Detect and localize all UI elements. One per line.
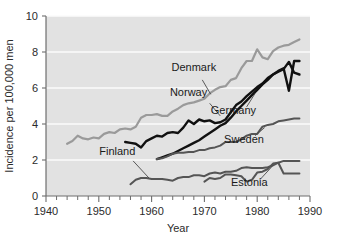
y-tick-label-2: 2	[32, 154, 38, 166]
x-axis-title: Year	[167, 222, 190, 234]
series-label-sweden: Sweden	[224, 133, 264, 145]
y-axis-title: Incidence per 100,000 men	[3, 39, 15, 172]
y-tick-label-6: 6	[32, 82, 38, 94]
series-label-estonia: Estonia	[231, 176, 269, 188]
chart-canvas: 0246810 194019501960197019801990 Denmark…	[0, 0, 340, 240]
y-tick-label-0: 0	[32, 190, 38, 202]
x-tick-label-1960: 1960	[139, 205, 163, 217]
x-tick-label-1970: 1970	[192, 205, 216, 217]
y-tick-label-4: 4	[32, 118, 38, 130]
y-tick-label-10: 10	[26, 10, 38, 22]
x-tick-label-1980: 1980	[245, 205, 269, 217]
plot-area-background	[46, 16, 310, 196]
series-label-finland: Finland	[99, 145, 135, 157]
incidence-line-chart: 0246810 194019501960197019801990 Denmark…	[0, 0, 340, 240]
series-label-denmark: Denmark	[172, 61, 217, 73]
series-label-germany: Germany	[211, 104, 257, 116]
x-tick-label-1940: 1940	[34, 205, 58, 217]
y-tick-label-8: 8	[32, 46, 38, 58]
x-tick-label-1990: 1990	[298, 205, 322, 217]
series-label-norway: Norway	[170, 86, 208, 98]
x-tick-label-1950: 1950	[87, 205, 111, 217]
